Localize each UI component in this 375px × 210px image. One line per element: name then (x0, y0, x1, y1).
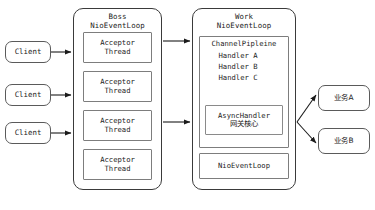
boss-panel-title: Boss NioEventLoop (74, 9, 161, 31)
work-title-line-2: NioEventLoop (193, 21, 295, 30)
service-box-a[interactable]: 业务A (318, 85, 370, 111)
acceptor-line-2: Thread (105, 165, 131, 173)
async-handler-box[interactable]: AsyncHandler 网关核心 (205, 105, 283, 135)
handler-item: Handler C (200, 72, 288, 83)
diagram-canvas: Client Client Client Boss NioEventLoop A… (0, 0, 375, 210)
acceptor-line-2: Thread (105, 87, 131, 95)
arrow-work-to-service-a (297, 95, 316, 122)
acceptor-thread-box-1[interactable]: Acceptor Thread (83, 32, 152, 63)
client-box-2[interactable]: Client (5, 84, 51, 106)
client-box-3[interactable]: Client (5, 122, 51, 144)
client-label: Client (15, 129, 42, 138)
async-handler-line-2: 网关核心 (230, 120, 258, 129)
work-title-line-1: Work (193, 12, 295, 21)
service-box-b[interactable]: 业务B (318, 128, 370, 154)
acceptor-line-2: Thread (105, 126, 131, 134)
handler-item: Handler A (200, 50, 288, 61)
work-inner-nioeventloop-label: NioEventLoop (218, 162, 270, 170)
service-label: 业务B (334, 137, 353, 146)
service-label: 业务A (334, 94, 353, 103)
boss-title-line-1: Boss (74, 12, 161, 21)
acceptor-thread-box-2[interactable]: Acceptor Thread (83, 71, 152, 102)
arrow-work-to-service-b (297, 122, 316, 143)
boss-title-line-2: NioEventLoop (74, 21, 161, 30)
acceptor-line-2: Thread (105, 48, 131, 56)
client-label: Client (15, 48, 42, 57)
acceptor-thread-box-4[interactable]: Acceptor Thread (83, 149, 152, 180)
client-label: Client (15, 91, 42, 100)
acceptor-thread-box-3[interactable]: Acceptor Thread (83, 110, 152, 141)
handler-item: Handler B (200, 61, 288, 72)
work-inner-nioeventloop-box[interactable]: NioEventLoop (199, 153, 289, 179)
client-box-1[interactable]: Client (5, 41, 51, 63)
channel-pipeline-title: ChannelPipleine (200, 37, 288, 48)
work-panel-title: Work NioEventLoop (193, 9, 295, 31)
